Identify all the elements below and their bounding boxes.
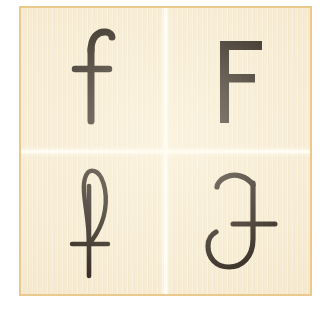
glyph-lowercase-roman-f <box>58 25 128 135</box>
glyph-cell-calligraphic-uppercase-f <box>166 151 311 294</box>
glyph-calligraphic-uppercase-f <box>195 167 281 279</box>
letter-variants-card <box>19 6 312 296</box>
glyph-cell-lowercase-roman-f <box>21 8 166 151</box>
glyph-uppercase-sans-f <box>201 25 275 135</box>
glyph-script-lowercase-f <box>58 160 128 286</box>
glyph-grid <box>21 8 310 294</box>
glyph-cell-script-lowercase-f <box>21 151 166 294</box>
glyph-cell-uppercase-sans-f <box>166 8 311 151</box>
screenshot-stage <box>0 0 321 309</box>
